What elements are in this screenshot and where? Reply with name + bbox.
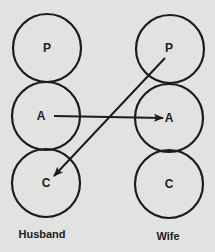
husband-parent-label: P xyxy=(43,41,51,55)
wife-ego-states: P A C Wife xyxy=(135,15,204,242)
husband-child-label: C xyxy=(42,176,51,190)
wife-adult-label: A xyxy=(165,111,174,125)
wife-child-label: C xyxy=(165,177,174,191)
wife-label: Wife xyxy=(156,230,179,242)
husband-adult-label: A xyxy=(37,109,46,123)
husband-label: Husband xyxy=(18,228,65,240)
wife-parent-label: P xyxy=(165,41,173,55)
husband-ego-states: P A C Husband xyxy=(12,14,81,240)
transaction-diagram: P A C Husband P A C Wife xyxy=(0,0,215,252)
